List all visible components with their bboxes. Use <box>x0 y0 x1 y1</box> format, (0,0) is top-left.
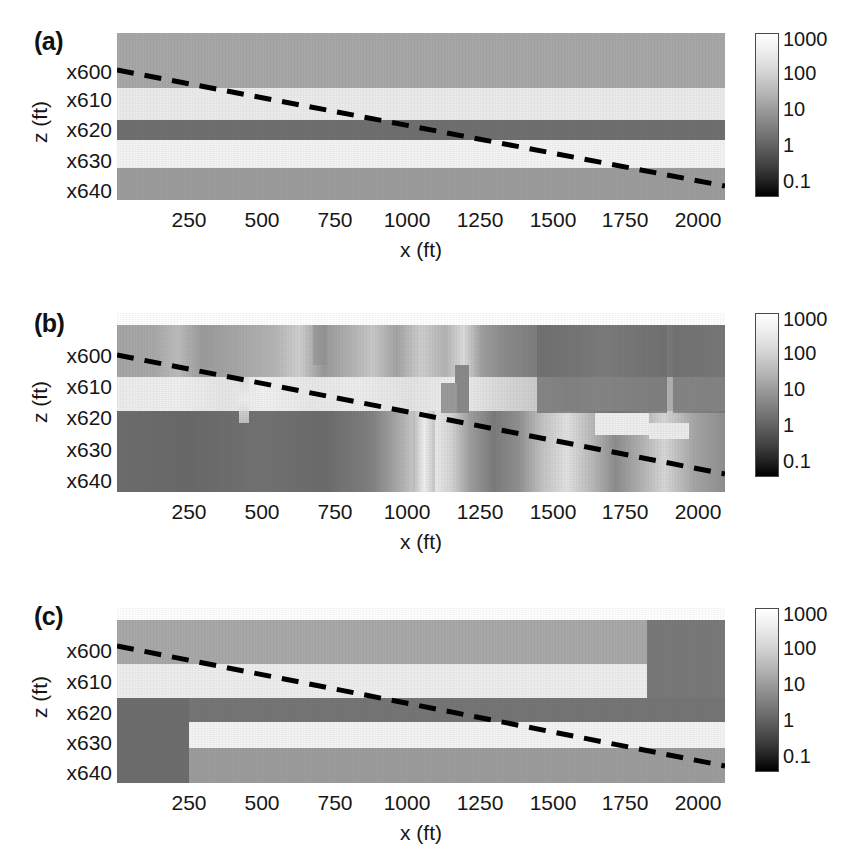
panel-b-ytick-labels: x600 x610 x620 x630 x640 <box>40 313 112 492</box>
xtick-750: 750 <box>317 207 352 233</box>
layer-band-2 <box>117 88 725 120</box>
ytick-x640: x640 <box>66 470 112 491</box>
panel-c-xtick-labels: 250 500 750 1000 1250 1500 1750 2000 <box>117 790 725 816</box>
panel-a-xlabel: x (ft) <box>400 238 442 262</box>
xtick-500: 500 <box>244 790 279 816</box>
panel-c-xlabel: x (ft) <box>400 821 442 845</box>
panel-b-xlabel: x (ft) <box>400 530 442 554</box>
xtick-1000: 1000 <box>384 790 431 816</box>
xtick-250: 250 <box>171 499 206 525</box>
block-bright-layer <box>117 664 647 698</box>
panel-c-plot-area <box>117 608 725 783</box>
block-mid-conductive <box>189 698 725 722</box>
ytick-x640: x640 <box>66 762 112 783</box>
artifact-dark-patch-right <box>537 325 667 413</box>
layer-band-4 <box>117 140 725 168</box>
xtick-250: 250 <box>171 790 206 816</box>
cbtick-100: 100 <box>783 638 816 658</box>
panel-a-colorbar <box>755 33 779 197</box>
layer-band-3 <box>117 120 725 140</box>
artifact-bright-column <box>413 411 435 492</box>
panel-a-xtick-labels: 250 500 750 1000 1250 1500 1750 2000 <box>117 207 725 233</box>
ytick-x610: x610 <box>66 89 112 110</box>
figure-three-panel-resistivity: (a) z (ft) x600 x610 x620 x630 x640 250 … <box>0 0 844 866</box>
xtick-750: 750 <box>317 790 352 816</box>
xtick-750: 750 <box>317 499 352 525</box>
artifact-block-step-2 <box>441 383 457 413</box>
panel-a-ytick-labels: x600 x610 x620 x630 x640 <box>40 33 112 200</box>
panel-c-ytick-labels: x600 x610 x620 x630 x640 <box>40 608 112 783</box>
panel-b-plot-area <box>117 313 725 492</box>
artifact-block-step <box>455 365 469 413</box>
xtick-1250: 1250 <box>457 790 504 816</box>
panel-a: (a) z (ft) x600 x610 x620 x630 x640 250 … <box>0 0 844 270</box>
ytick-x630: x630 <box>66 732 112 753</box>
artifact-light-notch-right <box>595 413 649 435</box>
cbtick-1: 1 <box>783 415 794 435</box>
cbtick-1000: 1000 <box>783 309 828 329</box>
xtick-1500: 1500 <box>530 207 577 233</box>
cbtick-0.1: 0.1 <box>783 746 811 766</box>
panel-b-xtick-labels: 250 500 750 1000 1250 1500 1750 2000 <box>117 499 725 525</box>
ytick-x620: x620 <box>66 119 112 140</box>
xtick-2000: 2000 <box>675 499 722 525</box>
block-left-conductive <box>117 698 189 783</box>
cbtick-1000: 1000 <box>783 29 828 49</box>
layer-band-5 <box>117 168 725 200</box>
block-bottom-gray <box>189 748 725 783</box>
xtick-1750: 1750 <box>602 790 649 816</box>
ytick-x620: x620 <box>66 407 112 428</box>
panel-c-colorbar <box>755 608 779 772</box>
cbtick-100: 100 <box>783 343 816 363</box>
panel-b: (b) z (ft) x600 x610 x620 x630 x640 <box>0 290 844 570</box>
cbtick-1: 1 <box>783 135 794 155</box>
ytick-x600: x600 <box>66 345 112 366</box>
cbtick-1000: 1000 <box>783 604 828 624</box>
ytick-x630: x630 <box>66 150 112 171</box>
ytick-x640: x640 <box>66 180 112 201</box>
artifact-streak-1 <box>239 377 249 423</box>
xtick-1500: 1500 <box>530 499 577 525</box>
xtick-1750: 1750 <box>602 207 649 233</box>
artifact-streak-2 <box>313 325 327 365</box>
panel-c: (c) z (ft) x600 x610 x620 x630 x640 <box>0 590 844 866</box>
xtick-1000: 1000 <box>384 499 431 525</box>
ytick-x610: x610 <box>66 376 112 397</box>
artifact-dark-patch-far-right <box>673 325 725 413</box>
layer-band-1 <box>117 33 725 88</box>
cbtick-10: 10 <box>783 379 805 399</box>
panel-b-colorbar <box>755 313 779 477</box>
xtick-2000: 2000 <box>675 790 722 816</box>
cbtick-0.1: 0.1 <box>783 171 811 191</box>
cbtick-10: 10 <box>783 674 805 694</box>
cbtick-100: 100 <box>783 63 816 83</box>
xtick-1500: 1500 <box>530 790 577 816</box>
xtick-2000: 2000 <box>675 207 722 233</box>
ytick-x600: x600 <box>66 61 112 82</box>
xtick-1250: 1250 <box>457 499 504 525</box>
xtick-250: 250 <box>171 207 206 233</box>
panel-a-plot-area <box>117 33 725 200</box>
ytick-x630: x630 <box>66 439 112 460</box>
xtick-500: 500 <box>244 207 279 233</box>
xtick-1000: 1000 <box>384 207 431 233</box>
ytick-x610: x610 <box>66 671 112 692</box>
ytick-x600: x600 <box>66 640 112 661</box>
panel-a-colorbar-ticks: 1000 100 10 1 0.1 <box>783 33 844 195</box>
panel-b-colorbar-ticks: 1000 100 10 1 0.1 <box>783 313 844 475</box>
cbtick-1: 1 <box>783 710 794 730</box>
block-bright-lower <box>189 722 725 748</box>
cbtick-0.1: 0.1 <box>783 451 811 471</box>
xtick-500: 500 <box>244 499 279 525</box>
xtick-1250: 1250 <box>457 207 504 233</box>
xtick-1750: 1750 <box>602 499 649 525</box>
panel-c-colorbar-ticks: 1000 100 10 1 0.1 <box>783 608 844 770</box>
artifact-light-notch-right-2 <box>649 423 689 439</box>
cbtick-10: 10 <box>783 99 805 119</box>
block-upper-resistive <box>117 620 647 664</box>
ytick-x620: x620 <box>66 702 112 723</box>
